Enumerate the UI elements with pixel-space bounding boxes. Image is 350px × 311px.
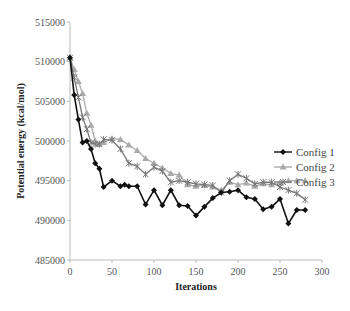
- diamond-marker: [134, 183, 140, 189]
- y-tick-label: 485000: [35, 255, 65, 266]
- legend-item: Config 2: [274, 161, 335, 173]
- diamond-marker: [176, 202, 182, 208]
- series-config-2: [67, 54, 309, 192]
- y-axis-title: Potential energy (kcal/mol): [15, 83, 27, 199]
- x-marker: [159, 168, 165, 175]
- x-marker: [302, 196, 308, 203]
- diamond-marker: [159, 202, 165, 208]
- x-marker: [117, 145, 123, 152]
- series-line: [70, 58, 305, 200]
- diamond-marker: [75, 117, 81, 123]
- line-chart: 4850004900004950005000005050005100005150…: [0, 0, 350, 311]
- y-tick-label: 490000: [35, 215, 65, 226]
- diamond-marker: [71, 92, 77, 98]
- series-line: [70, 58, 305, 190]
- x-marker: [134, 163, 140, 170]
- x-marker: [285, 187, 291, 194]
- triangle-marker: [134, 147, 141, 153]
- x-marker: [294, 190, 300, 197]
- triangle-marker: [167, 170, 174, 176]
- x-marker: [143, 171, 149, 178]
- x-tick-label: 100: [147, 266, 162, 277]
- x-marker: [151, 164, 157, 171]
- diamond-marker: [227, 189, 233, 195]
- diamond-marker: [280, 149, 286, 155]
- x-marker: [84, 126, 90, 133]
- diamond-marker: [302, 207, 308, 213]
- legend-item: Config 1: [274, 146, 335, 158]
- y-tick-label: 510000: [35, 56, 65, 67]
- y-tick-label: 515000: [35, 17, 65, 28]
- y-tick-label: 500000: [35, 136, 65, 147]
- legend-label: Config 1: [296, 146, 335, 158]
- diamond-marker: [168, 187, 174, 193]
- x-tick-label: 50: [107, 266, 117, 277]
- triangle-marker: [125, 141, 132, 147]
- x-tick-label: 250: [273, 266, 288, 277]
- legend-item: Config 3: [274, 176, 335, 188]
- x-axis-title: Iterations: [175, 281, 217, 292]
- x-tick-label: 300: [315, 266, 330, 277]
- x-marker: [126, 160, 132, 167]
- legend-label: Config 3: [296, 176, 335, 188]
- x-marker: [227, 177, 233, 184]
- x-tick-label: 150: [189, 266, 204, 277]
- plot-area: [67, 54, 309, 226]
- x-tick-label: 200: [231, 266, 246, 277]
- legend: Config 1Config 2Config 3: [274, 146, 335, 188]
- x-tick-label: 0: [68, 266, 73, 277]
- x-marker: [243, 175, 249, 182]
- axes: 4850004900004950005000005050005100005150…: [35, 17, 330, 278]
- y-tick-label: 495000: [35, 175, 65, 186]
- series-config-3: [67, 54, 308, 203]
- x-marker: [235, 171, 241, 178]
- y-tick-label: 505000: [35, 96, 65, 107]
- legend-label: Config 2: [296, 161, 335, 173]
